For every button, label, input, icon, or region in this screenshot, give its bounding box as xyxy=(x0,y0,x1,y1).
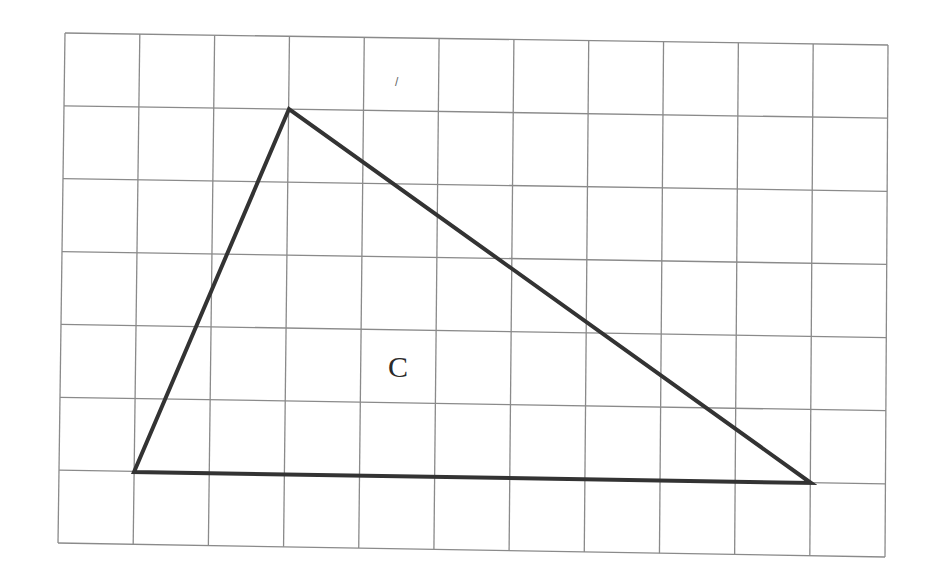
triangle-c xyxy=(134,109,811,483)
grid-line-horizontal xyxy=(65,33,888,45)
grid-line-vertical xyxy=(434,38,439,549)
grid-line-horizontal xyxy=(58,543,885,557)
grid-line-horizontal xyxy=(64,106,888,118)
grid-line-horizontal xyxy=(60,397,886,410)
grid-line-horizontal xyxy=(62,252,887,265)
grid-line-vertical xyxy=(584,41,588,552)
grid-line-vertical xyxy=(659,42,663,553)
grid-line-horizontal xyxy=(61,324,886,337)
grid-line-vertical xyxy=(885,45,888,557)
grid-line-horizontal xyxy=(63,179,887,192)
stray-pencil-mark: / xyxy=(395,75,399,89)
grid-line-vertical xyxy=(810,44,813,556)
grid-line-vertical xyxy=(58,33,65,543)
grid-line-vertical xyxy=(509,40,514,551)
grid-diagram: C / xyxy=(0,0,930,581)
grid-line-vertical xyxy=(735,43,739,555)
triangle-label: C xyxy=(388,350,408,383)
grid-line-vertical xyxy=(359,37,365,548)
